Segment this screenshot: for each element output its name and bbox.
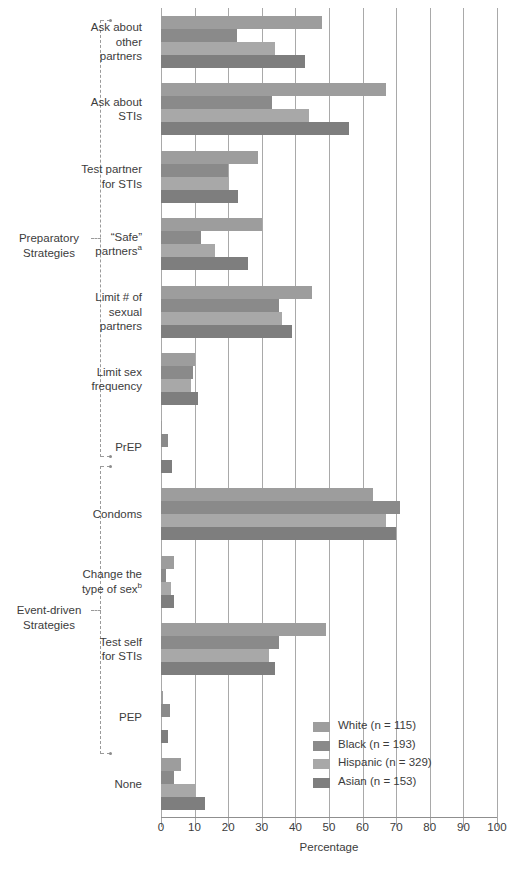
footnote-marker: b [138, 581, 142, 590]
bar-black[interactable] [161, 771, 174, 784]
bar-white[interactable] [161, 83, 386, 96]
bar-white[interactable] [161, 286, 312, 299]
bracket-dot-bottom [109, 752, 112, 755]
category-label: Ask aboutSTIs [0, 95, 150, 124]
bar-hispanic[interactable] [161, 717, 162, 730]
category-label: Test partnerfor STIs [0, 162, 150, 191]
bar-asian[interactable] [161, 257, 248, 270]
category-label: Change thetype of sexb [0, 567, 150, 596]
bar-black[interactable] [161, 366, 193, 379]
category-label: None [0, 777, 150, 792]
bar-group [161, 151, 497, 203]
bar-group [161, 556, 497, 608]
bar-asian[interactable] [161, 190, 238, 203]
bar-black[interactable] [161, 231, 201, 244]
bar-hispanic[interactable] [161, 244, 215, 257]
bar-hispanic[interactable] [161, 42, 275, 55]
bar-white[interactable] [161, 623, 326, 636]
category-label-line: other [0, 35, 142, 50]
category-label-line: for STIs [0, 177, 142, 192]
bar-group [161, 286, 497, 338]
footnote-marker: a [138, 243, 142, 252]
category-label: Limit sexfrequency [0, 365, 150, 394]
category-label-line: Ask about [0, 95, 142, 110]
bar-hispanic[interactable] [161, 447, 162, 460]
bar-asian[interactable] [161, 325, 292, 338]
bar-black[interactable] [161, 704, 170, 717]
legend-label: White (n = 115) [338, 719, 416, 731]
tick-label-100: 100 [477, 821, 510, 833]
bar-group [161, 218, 497, 270]
bar-group [161, 421, 497, 473]
category-label-line: partners [0, 49, 142, 64]
bracket-label-line: Event-driven [3, 603, 95, 618]
bar-white[interactable] [161, 218, 262, 231]
bar-asian[interactable] [161, 460, 172, 473]
legend-swatch-white [313, 722, 330, 732]
bar-black[interactable] [161, 29, 237, 42]
category-label-line: PrEP [0, 440, 142, 455]
bar-asian[interactable] [161, 122, 349, 135]
bar-hispanic[interactable] [161, 649, 269, 662]
category-label-line: Condoms [0, 507, 142, 522]
bar-black[interactable] [161, 299, 279, 312]
grouped-bar-chart: Preparatory Strategies Event-driven Stra… [0, 0, 510, 876]
bar-black[interactable] [161, 501, 400, 514]
category-label-line: Test self [0, 635, 142, 650]
bar-white[interactable] [161, 421, 162, 434]
bar-asian[interactable] [161, 595, 174, 608]
category-label-line: None [0, 777, 142, 792]
bracket-label-event-driven: Event-driven Strategies [3, 603, 95, 632]
category-label-line: type of sexb [0, 582, 142, 597]
plot-area [161, 8, 497, 818]
bar-asian[interactable] [161, 527, 396, 540]
bar-asian[interactable] [161, 55, 305, 68]
bar-hispanic[interactable] [161, 514, 386, 527]
gridline-100 [497, 8, 498, 818]
legend-swatch-black [313, 741, 330, 751]
category-label: Test selffor STIs [0, 635, 150, 664]
bar-black[interactable] [161, 164, 228, 177]
bar-group [161, 488, 497, 540]
bar-hispanic[interactable] [161, 582, 171, 595]
legend-label: Hispanic (n = 329) [338, 756, 432, 768]
bar-black[interactable] [161, 96, 272, 109]
category-label-line: sexual [0, 305, 142, 320]
bar-hispanic[interactable] [161, 312, 282, 325]
bar-asian[interactable] [161, 797, 205, 810]
category-label-line: STIs [0, 109, 142, 124]
category-label-line: for STIs [0, 649, 142, 664]
bar-hispanic[interactable] [161, 109, 309, 122]
bar-asian[interactable] [161, 662, 275, 675]
bar-asian[interactable] [161, 392, 198, 405]
category-label-line: Change the [0, 567, 142, 582]
bar-black[interactable] [161, 569, 166, 582]
bar-white[interactable] [161, 758, 181, 771]
category-label: PrEP [0, 440, 150, 455]
bar-black[interactable] [161, 636, 279, 649]
category-label-line: Limit sex [0, 365, 142, 380]
bar-white[interactable] [161, 353, 195, 366]
bar-white[interactable] [161, 488, 373, 501]
legend-label: Black (n = 193) [338, 738, 416, 750]
category-label: “Safe”partnersa [0, 230, 150, 259]
bar-hispanic[interactable] [161, 784, 195, 797]
bar-black[interactable] [161, 434, 168, 447]
bar-group [161, 16, 497, 68]
bar-white[interactable] [161, 16, 322, 29]
bar-white[interactable] [161, 691, 163, 704]
bar-white[interactable] [161, 556, 174, 569]
bar-white[interactable] [161, 151, 258, 164]
bar-group [161, 623, 497, 675]
legend-label: Asian (n = 153) [338, 775, 416, 787]
bar-hispanic[interactable] [161, 177, 228, 190]
category-label: Limit # ofsexualpartners [0, 290, 150, 334]
category-label-line: PEP [0, 710, 142, 725]
category-label: PEP [0, 710, 150, 725]
bar-hispanic[interactable] [161, 379, 191, 392]
bar-asian[interactable] [161, 730, 168, 743]
category-label: Condoms [0, 507, 150, 522]
category-label-line: partnersa [0, 244, 142, 259]
category-label-line: partners [0, 319, 142, 334]
bracket-dot-top [109, 465, 112, 468]
